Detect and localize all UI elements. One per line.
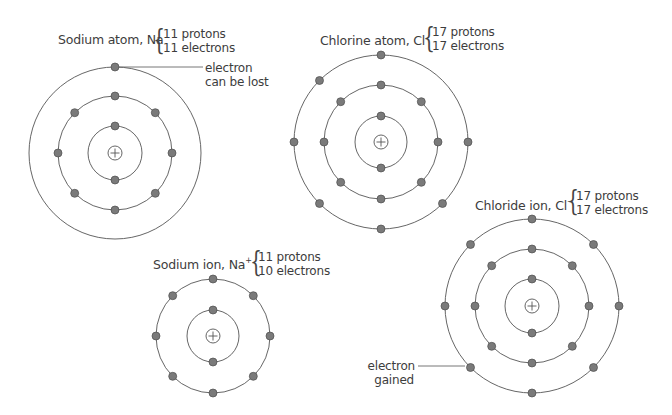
electron-dot: [434, 138, 442, 146]
electron-dot: [209, 358, 217, 366]
sodium-ion-title: Sodium ion, Na+: [153, 258, 252, 272]
electron-can-be-lost-label-line2: can be lost: [205, 75, 269, 89]
electron-dot: [169, 372, 177, 380]
chloride-ion: [441, 215, 623, 397]
sodium-atom-protons: 11 protons: [163, 27, 226, 41]
electron-dot: [266, 332, 274, 340]
sodium-atom-title: Sodium atom, Na: [58, 33, 163, 47]
electron-dot: [249, 372, 257, 380]
electron-dot: [249, 292, 257, 300]
electron-dot: [54, 149, 62, 157]
electron-dot: [528, 215, 536, 223]
electron-dot: [528, 245, 536, 253]
electron-dot: [377, 81, 385, 89]
electron-dot: [417, 178, 425, 186]
electron-gained-label-line1: electron: [368, 359, 415, 373]
electron-dot: [151, 189, 159, 197]
electron-dot: [111, 176, 119, 184]
sodium-atom-title-text: Sodium atom, Na: [58, 32, 163, 47]
electron-dot: [111, 63, 119, 71]
electron-dot: [528, 389, 536, 397]
electron-gained-label-line2: gained: [374, 373, 414, 387]
chlorine-atom-protons: 17 protons: [432, 25, 495, 39]
electron-dot: [528, 359, 536, 367]
nucleus-plus-icon: [108, 146, 122, 160]
electron-dot: [585, 302, 593, 310]
electron-dot: [377, 195, 385, 203]
electron-dot: [209, 275, 217, 283]
electron-dot: [439, 200, 447, 208]
chloride-ion-protons: 17 protons: [576, 189, 639, 203]
chlorine-atom-title-text: Chlorine atom, Cl: [320, 33, 425, 48]
sodium-ion-electrons: 10 electrons: [258, 264, 330, 278]
electron-dot: [111, 92, 119, 100]
sodium-ion-title-text: Sodium ion, Na: [153, 257, 245, 272]
electron-dot: [441, 302, 449, 310]
electron-dot: [568, 342, 576, 350]
electron-dot: [488, 262, 496, 270]
nucleus-plus-icon: [525, 299, 539, 313]
chloride-ion-title: Chloride ion, Cl−: [475, 199, 574, 213]
electron-dot: [337, 178, 345, 186]
electron-dot: [471, 302, 479, 310]
chloride-ion-electrons: 17 electrons: [576, 203, 648, 217]
electron-dot: [590, 241, 598, 249]
chlorine-atom: [290, 51, 472, 233]
electron-dot: [209, 389, 217, 397]
electron-dot: [377, 164, 385, 172]
chlorine-atom-electrons: 17 electrons: [432, 39, 504, 53]
electron-dot: [568, 262, 576, 270]
electron-dot: [151, 109, 159, 117]
electron-dot: [467, 241, 475, 249]
electron-dot: [169, 292, 177, 300]
electron-dot: [71, 109, 79, 117]
electron-dot: [168, 149, 176, 157]
electron-dot: [152, 332, 160, 340]
sodium-atom-electrons: 11 electrons: [163, 41, 235, 55]
electron-dot: [320, 138, 328, 146]
electron-dot: [417, 98, 425, 106]
electron-dot: [316, 77, 324, 85]
electron-dot: [316, 200, 324, 208]
electron-dot: [590, 364, 598, 372]
electron-dot: [488, 342, 496, 350]
electron-dot: [528, 329, 536, 337]
electron-dot: [71, 189, 79, 197]
sodium-ion-protons: 11 protons: [258, 250, 321, 264]
sodium-ion: [152, 275, 274, 397]
electron-dot: [377, 51, 385, 59]
electron-dot: [377, 225, 385, 233]
electron-dot: [528, 275, 536, 283]
electron-dot: [290, 138, 298, 146]
electron-dot: [111, 206, 119, 214]
nucleus-plus-icon: [374, 135, 388, 149]
electron-dot: [337, 98, 345, 106]
electron-dot: [377, 112, 385, 120]
electron-dot: [111, 122, 119, 130]
electron-dot: [209, 306, 217, 314]
chlorine-atom-title: Chlorine atom, Cl: [320, 34, 425, 48]
electron-dot: [467, 364, 475, 372]
electron-dot: [464, 138, 472, 146]
chloride-ion-title-text: Chloride ion, Cl: [475, 198, 567, 213]
nucleus-plus-icon: [206, 329, 220, 343]
sodium-atom: [29, 63, 201, 239]
electron-dot: [615, 302, 623, 310]
electron-can-be-lost-label-line1: electron: [205, 61, 252, 75]
